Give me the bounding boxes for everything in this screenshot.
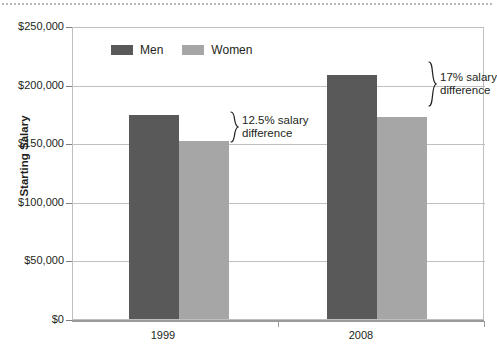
x-tick-right	[484, 321, 485, 327]
legend-item-men: Men	[111, 44, 163, 56]
y-tick-label: $0	[4, 314, 64, 325]
annotation-2008-line2: difference	[440, 84, 497, 98]
y-tick-label: $50,000	[4, 255, 64, 266]
annotation-1999-text: 12.5% salary difference	[239, 114, 308, 141]
legend-label-women: Women	[211, 44, 252, 56]
bar-1999-men[interactable]	[129, 115, 179, 319]
y-tick-200000: $200,000	[0, 80, 64, 92]
legend-swatch-men-icon	[111, 45, 133, 55]
annotation-1999-line1: 12.5% salary	[242, 114, 308, 128]
annotation-2008-text: 17% salary difference	[437, 71, 497, 98]
y-tick-100000: $100,000	[0, 197, 64, 209]
bar-1999-women[interactable]	[179, 141, 229, 319]
legend-swatch-women-icon	[182, 45, 204, 55]
chart-legend: Men Women	[111, 44, 252, 56]
y-tick-label: $150,000	[4, 138, 64, 149]
y-tick-label: $100,000	[4, 197, 64, 208]
y-tick-label: $200,000	[4, 80, 64, 91]
brace-icon	[230, 111, 239, 143]
top-dotted-rule	[2, 3, 492, 5]
bar-2008-women[interactable]	[377, 117, 427, 319]
y-tick-0: $0	[0, 314, 64, 326]
plot-area: Men Women 12.5% salary difference	[72, 27, 484, 320]
brace-icon	[428, 61, 437, 107]
y-tick-50000: $50,000	[0, 255, 64, 267]
legend-item-women: Women	[182, 44, 252, 56]
annotation-2008: 17% salary difference	[428, 61, 497, 107]
annotation-1999-line2: difference	[242, 127, 308, 141]
bar-2008-men[interactable]	[327, 75, 377, 319]
annotation-2008-line1: 17% salary	[440, 71, 497, 85]
y-tick-label: $250,000	[4, 21, 64, 32]
y-tick-150000: $150,000	[0, 138, 64, 150]
annotation-1999: 12.5% salary difference	[230, 111, 308, 143]
x-tick-mid	[278, 321, 279, 327]
x-label-2008: 2008	[311, 329, 411, 341]
gridline-200000	[73, 86, 485, 87]
x-label-1999: 1999	[113, 329, 213, 341]
legend-label-men: Men	[140, 44, 163, 56]
y-tick-250000: $250,000	[0, 21, 64, 33]
